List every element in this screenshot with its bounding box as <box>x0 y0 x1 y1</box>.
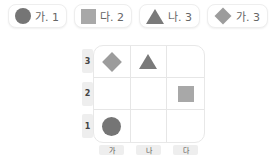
cell-다-2 <box>167 78 204 110</box>
square-icon <box>178 86 194 102</box>
cell-다-1 <box>167 110 204 142</box>
cell-나-3 <box>131 46 168 78</box>
column-labels: 가 나 다 <box>99 145 198 155</box>
row-labels: 3 2 1 <box>82 49 93 147</box>
column-label-가: 가 <box>99 145 124 155</box>
square-icon <box>81 9 96 24</box>
row-label-2: 2 <box>82 82 93 106</box>
legend-label: 나. 3 <box>168 8 192 24</box>
row-label-1: 1 <box>82 114 93 138</box>
legend-item-triangle: 나. 3 <box>139 4 200 28</box>
column-label-다: 다 <box>173 145 198 155</box>
legend-item-square: 다. 2 <box>74 4 132 28</box>
cell-다-3 <box>167 46 204 78</box>
legend-item-diamond: 가. 3 <box>207 4 268 28</box>
cell-가-3 <box>94 46 131 78</box>
legend-label: 다. 2 <box>100 8 124 24</box>
cell-가-1 <box>94 110 131 142</box>
legend-label: 가. 3 <box>236 8 260 24</box>
diamond-icon <box>215 8 232 25</box>
triangle-icon <box>146 9 164 24</box>
cell-가-2 <box>94 78 131 110</box>
legend-item-circle: 가. 1 <box>8 4 67 28</box>
diamond-icon <box>102 52 122 72</box>
column-label-나: 나 <box>136 145 161 155</box>
triangle-icon <box>139 54 157 69</box>
cell-나-1 <box>131 110 168 142</box>
grid-board <box>93 45 205 143</box>
circle-icon <box>102 117 121 136</box>
legend-label: 가. 1 <box>35 8 59 24</box>
circle-icon <box>15 8 31 24</box>
row-label-3: 3 <box>82 49 93 73</box>
cell-나-2 <box>131 78 168 110</box>
legend: 가. 1 다. 2 나. 3 가. 3 <box>8 4 268 28</box>
